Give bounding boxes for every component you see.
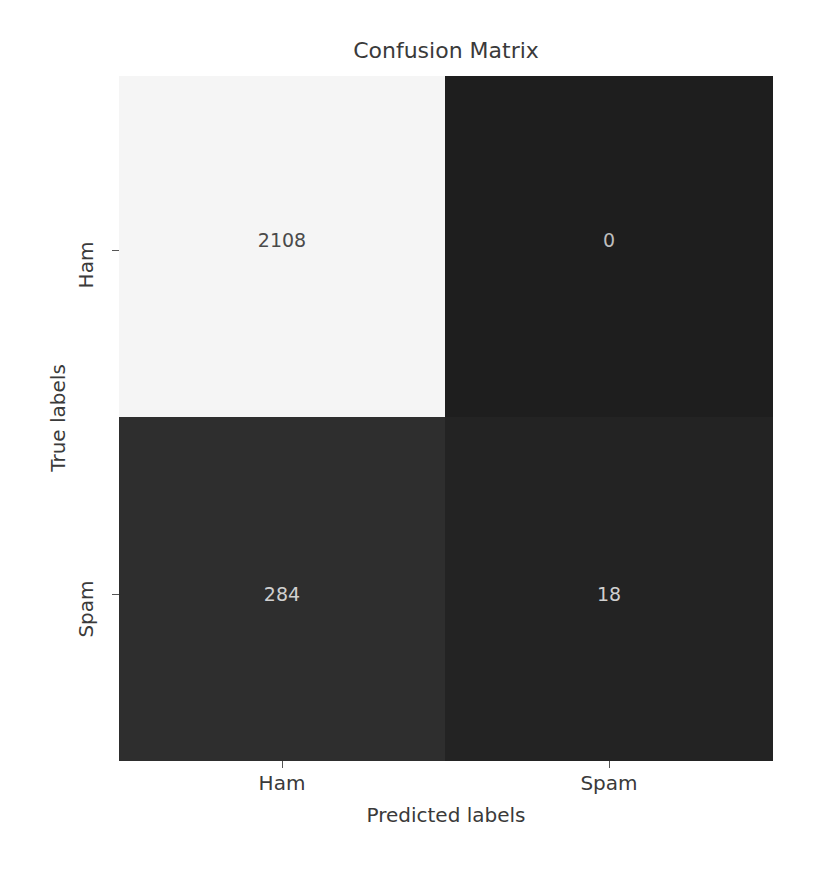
y-axis-label: True labels [46,318,70,518]
x-axis-label: Predicted labels [296,803,596,827]
cell-true-ham-predicted-ham: 2108 [119,76,445,417]
xtick-mark-spam [609,761,610,768]
ytick-mark-ham [112,250,119,251]
cell-value: 18 [597,583,621,605]
ytick-label-ham: Ham [74,225,98,305]
ytick-mark-spam [112,594,119,595]
confusion-matrix-heatmap: 2108 0 284 18 [119,76,773,761]
cell-true-spam-predicted-ham: 284 [119,417,445,761]
cell-value: 0 [603,229,615,251]
xtick-label-ham: Ham [232,771,332,795]
xtick-label-spam: Spam [559,771,659,795]
chart-title: Confusion Matrix [119,38,773,63]
ytick-label-spam: Spam [74,569,98,649]
cell-value: 284 [264,583,300,605]
cell-true-spam-predicted-spam: 18 [445,417,773,761]
cell-value: 2108 [258,229,306,251]
xtick-mark-ham [282,761,283,768]
cell-true-ham-predicted-spam: 0 [445,76,773,417]
